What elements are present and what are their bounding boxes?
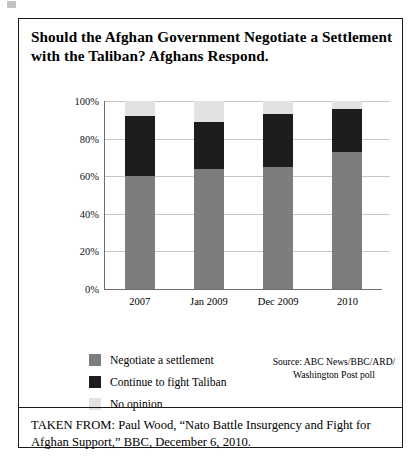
x-axis-tick-label: Dec 2009 [258,296,299,307]
legend-swatch-icon [89,376,101,388]
y-axis-tick-label: 100% [75,96,100,107]
x-axis-tick-label: Jan 2009 [190,296,228,307]
bar-segment [263,167,293,289]
legend-item: Negotiate a settlement [89,349,269,371]
legend-item-label: Negotiate a settlement [110,354,214,367]
y-axis-tick-label: 0% [85,284,99,295]
bar-column: 2010 [332,101,362,289]
bar-segment [194,169,224,289]
y-axis-tick-label: 80% [80,133,99,144]
section-divider [19,407,402,408]
bar-segment [125,176,155,289]
y-axis-tick-label: 60% [80,171,99,182]
bar-segment [332,101,362,109]
y-axis-tick-label: 20% [80,246,99,257]
bar-column: Dec 2009 [263,101,293,289]
bar-segment [263,101,293,114]
figure-frame: Should the Afghan Government Negotiate a… [18,18,403,448]
bar-segment [194,101,224,122]
legend-item-label: No opinion [110,398,163,411]
bar-column: Jan 2009 [194,101,224,289]
figure-page: Should the Afghan Government Negotiate a… [0,0,419,456]
bar-segment [125,116,155,176]
bar-segment [332,109,362,152]
scan-artifact-mark [7,1,16,8]
plot-area: 0%20%40%60%80%100% 2007Jan 2009Dec 20092… [104,101,382,290]
legend-item: No opinion [89,393,269,415]
bar-segment [263,114,293,167]
bar-segment [125,101,155,116]
figure-title: Should the Afghan Government Negotiate a… [31,27,393,65]
bar-segment [332,152,362,289]
x-axis-tick-label: 2010 [337,296,358,307]
stacked-bar-chart: 0%20%40%60%80%100% 2007Jan 2009Dec 20092… [51,97,391,319]
y-axis-tick-label: 40% [80,208,99,219]
legend-item-label: Continue to fight Taliban [110,376,227,389]
bar-segment [194,122,224,169]
legend-swatch-icon [89,354,101,366]
figure-caption: TAKEN FROM: Paul Wood, “Nato Battle Insu… [31,417,395,451]
bar-series-group: 2007Jan 2009Dec 20092010 [105,101,382,289]
x-axis-tick-label: 2007 [129,296,150,307]
bar-column: 2007 [125,101,155,289]
chart-legend: Negotiate a settlementContinue to fight … [89,349,269,415]
legend-item: Continue to fight Taliban [89,371,269,393]
source-note: Source: ABC News/BBC/ARD/ Washington Pos… [259,355,409,381]
